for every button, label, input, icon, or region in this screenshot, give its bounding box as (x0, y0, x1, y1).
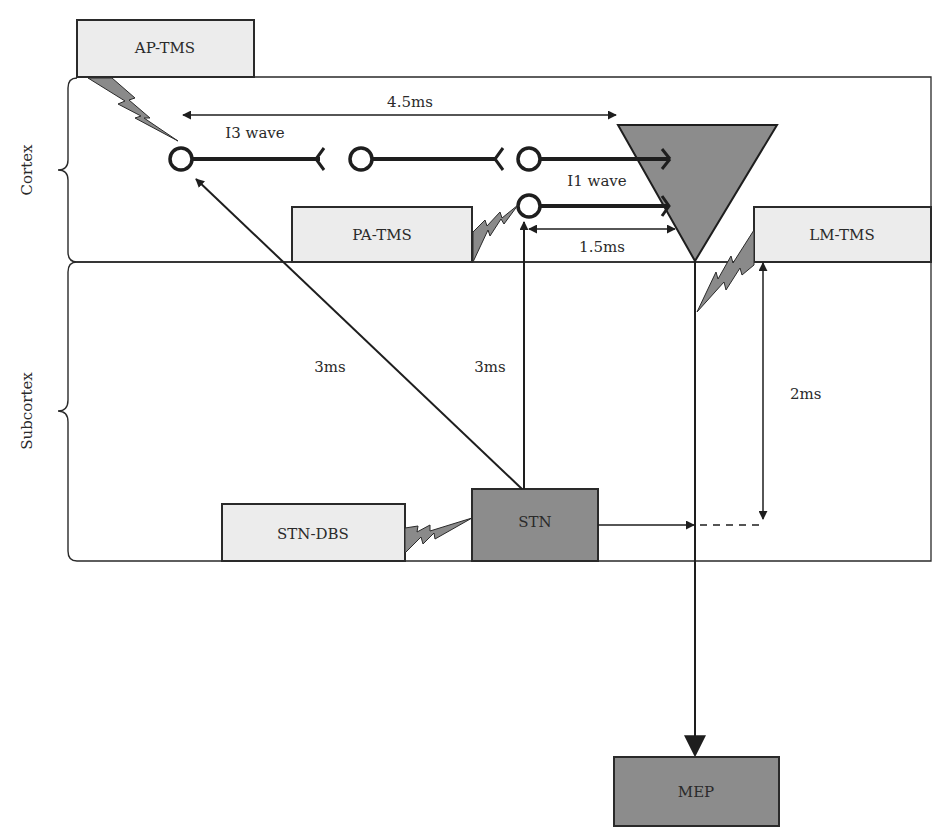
tms-dbs-circuit-diagram: Cortex Subcortex AP-TMS 4.5ms I3 wave I1… (0, 0, 943, 840)
subcortex-label: Subcortex (18, 372, 36, 450)
ap-tms-lightning-icon (88, 78, 178, 141)
stn-to-i3-latency-label: 3ms (314, 358, 345, 376)
subcortex-brace (58, 262, 77, 561)
cortex-brace (58, 78, 77, 262)
pa-tms-label: PA-TMS (352, 226, 412, 244)
cortex-label: Cortex (18, 144, 36, 196)
latency-4.5ms-label: 4.5ms (387, 93, 433, 111)
stn-to-i1-latency-label: 3ms (474, 358, 505, 376)
latency-2ms-label: 2ms (790, 385, 821, 403)
stn-dbs-lightning-icon (405, 518, 472, 553)
i3-interneuron-2 (350, 148, 372, 170)
lm-tms-label: LM-TMS (809, 226, 875, 244)
pa-tms-lightning-icon (473, 205, 518, 262)
i3-interneuron-1 (170, 148, 192, 170)
stn-label: STN (518, 513, 551, 531)
stn-dbs-label: STN-DBS (277, 525, 349, 543)
i1-wave-label: I1 wave (567, 172, 626, 190)
ap-tms-label: AP-TMS (134, 39, 195, 57)
latency-1.5ms-label: 1.5ms (579, 238, 625, 256)
i1-interneuron (518, 195, 540, 217)
mep-label: MEP (678, 783, 714, 801)
i3-interneuron-3 (518, 148, 540, 170)
i3-wave-label: I3 wave (225, 124, 284, 142)
i3-synapse-2 (495, 148, 503, 170)
